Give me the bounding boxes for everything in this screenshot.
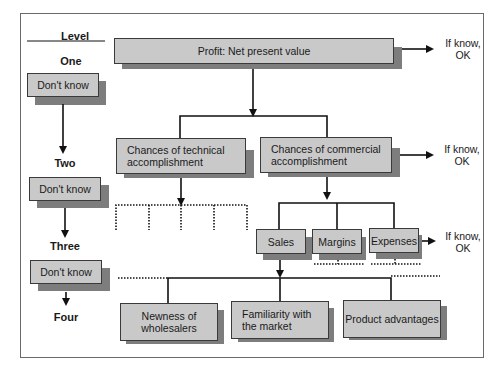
dont-know-three-box: Don't know (30, 260, 102, 284)
level-header: Level (35, 30, 115, 42)
profit-node: Profit: Net present value (114, 38, 394, 64)
newness-node: Newness of wholesalers (120, 303, 218, 341)
level-one-label: One (31, 55, 111, 67)
dont-know-two-box: Don't know (29, 177, 101, 201)
familiarity-node: Familiarity with the market (231, 301, 329, 339)
product-node: Product advantages (343, 300, 441, 338)
dont-know-one-box: Don't know (27, 73, 99, 97)
level-two-label: Two (25, 157, 105, 169)
if-know-ok-two: If know, OK (440, 143, 484, 167)
technical-node: Chances of technical accomplishment (116, 138, 246, 174)
expenses-node: Expenses (369, 228, 419, 253)
if-know-ok-one: If know, OK (441, 37, 485, 61)
margins-node: Margins (312, 229, 362, 254)
level-three-label: Three (25, 240, 105, 252)
sales-node: Sales (256, 229, 306, 254)
commercial-node: Chances of commercial accomplishment (260, 137, 392, 173)
level-four-label: Four (26, 311, 106, 323)
if-know-ok-three: If know, OK (441, 230, 485, 254)
